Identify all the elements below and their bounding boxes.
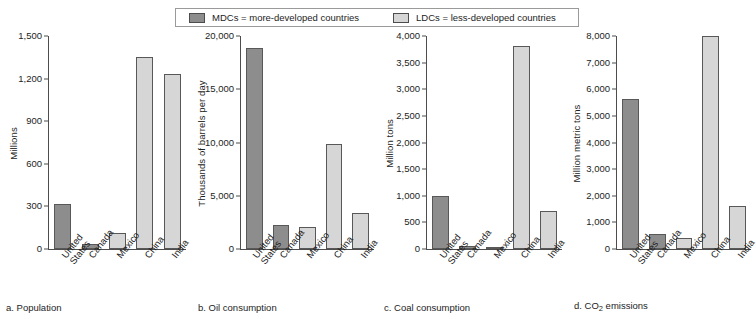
- y-axis-ticks-b: 05,00010,00015,00020,000: [194, 36, 240, 250]
- y-tick-label: 7,000: [586, 58, 610, 68]
- bar-slot: [49, 36, 76, 249]
- legend-swatch-ldc-icon: [393, 13, 409, 23]
- bar-slot: [724, 36, 751, 249]
- y-tick-label: 5,000: [210, 191, 234, 201]
- plot-area-a: [48, 36, 186, 250]
- chart-panel-oil-consumption: Thousands of barrels per day 05,00010,00…: [190, 36, 378, 319]
- legend-entry-mdc: MDCs = more-developed countries: [189, 12, 359, 23]
- chart-panel-co2-emissions: Million metric tons 01,0002,0003,0004,00…: [566, 36, 755, 319]
- panel-subtitle-c: c. Coal consumption: [384, 302, 470, 313]
- bar-slot: [508, 36, 535, 249]
- y-tick-label: 10,000: [205, 138, 234, 148]
- subscript: 2: [599, 304, 603, 313]
- bar: [513, 46, 530, 249]
- bar-slot: [268, 36, 295, 249]
- bar-slot: [644, 36, 671, 249]
- y-tick-label: 600: [26, 159, 42, 169]
- y-axis-ticks-d: 01,0002,0003,0004,0005,0006,0007,0008,00…: [570, 36, 616, 250]
- x-axis-categories-b: United StatesCanadaMexicoChinaIndia: [190, 251, 378, 309]
- panel-subtitle-a: a. Population: [6, 302, 61, 313]
- bar-slot: [454, 36, 481, 249]
- y-tick-label: 4,000: [586, 138, 610, 148]
- y-tick-label: 20,000: [205, 31, 234, 41]
- chart-legend: MDCs = more-developed countries LDCs = l…: [175, 8, 579, 27]
- bar-slot: [427, 36, 454, 249]
- bar-slot: [347, 36, 374, 249]
- bar-series-d: [617, 36, 751, 249]
- bar: [622, 99, 639, 249]
- y-tick-label: 1,500: [396, 164, 420, 174]
- legend-label-mdc: MDCs = more-developed countries: [212, 12, 359, 23]
- plot-area-b: [240, 36, 374, 250]
- y-tick-label: 4,000: [396, 31, 420, 41]
- legend-label-ldc: LDCs = less-developed countries: [416, 12, 556, 23]
- bar-slot: [159, 36, 186, 249]
- y-tick-label: 1,500: [18, 31, 42, 41]
- bar-slot: [241, 36, 268, 249]
- bar: [164, 74, 181, 249]
- y-axis-ticks-a: 03006009001,2001,500: [6, 36, 48, 250]
- y-tick-label: 1,000: [586, 218, 610, 228]
- plot-area-d: [616, 36, 751, 250]
- legend-entry-ldc: LDCs = less-developed countries: [393, 12, 556, 23]
- bar-slot: [481, 36, 508, 249]
- y-tick-label: 1,200: [18, 74, 42, 84]
- y-tick-label: 2,500: [396, 111, 420, 121]
- y-tick-label: 1,000: [396, 191, 420, 201]
- bar-slot: [131, 36, 158, 249]
- y-tick-label: 300: [26, 202, 42, 212]
- y-tick-label: 2,000: [586, 191, 610, 201]
- bar-series-b: [241, 36, 374, 249]
- y-tick-label: 8,000: [586, 31, 610, 41]
- y-axis-ticks-c: 05001,0001,5002,0002,5003,0003,5004,000: [382, 36, 426, 250]
- panel-subtitle-b: b. Oil consumption: [198, 302, 277, 313]
- y-tick-label: 500: [404, 218, 420, 228]
- bar-series-a: [49, 36, 186, 249]
- bar-slot: [697, 36, 724, 249]
- legend-swatch-mdc-icon: [189, 13, 205, 23]
- bar-slot: [76, 36, 103, 249]
- panel-subtitle-d: d. CO2 emissions: [574, 300, 648, 313]
- bar: [702, 36, 719, 249]
- chart-panel-coal-consumption: Million tons 05001,0001,5002,0002,5003,0…: [378, 36, 566, 319]
- y-tick-label: 3,500: [396, 58, 420, 68]
- bar-slot: [617, 36, 644, 249]
- bar-slot: [535, 36, 562, 249]
- bar-slot: [671, 36, 698, 249]
- y-tick-label: 5,000: [586, 111, 610, 121]
- y-tick-label: 3,000: [396, 85, 420, 95]
- y-tick-label: 900: [26, 116, 42, 126]
- bar: [136, 57, 153, 249]
- bar: [246, 48, 262, 249]
- chart-panel-population: Millions 03006009001,2001,500 United Sta…: [2, 36, 190, 319]
- plot-area-c: [426, 36, 562, 250]
- y-tick-label: 6,000: [586, 85, 610, 95]
- bar-series-c: [427, 36, 562, 249]
- y-tick-label: 2,000: [396, 138, 420, 148]
- bar-slot: [104, 36, 131, 249]
- y-tick-label: 15,000: [205, 85, 234, 95]
- bar-slot: [294, 36, 321, 249]
- bar-slot: [321, 36, 348, 249]
- y-tick-label: 3,000: [586, 164, 610, 174]
- x-axis-categories-a: United StatesCanadaMexicoChinaIndia: [2, 251, 190, 309]
- x-axis-categories-c: United StatesCanadaMexicoChinaIndia: [378, 251, 566, 309]
